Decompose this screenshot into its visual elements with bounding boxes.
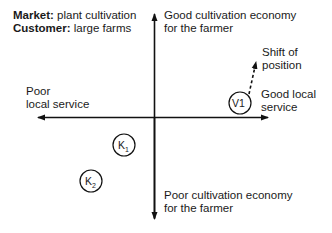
right-axis-label-2: service <box>261 101 297 114</box>
customer-line: Customer: large farms <box>13 22 131 35</box>
shift-annotation-2: position <box>262 59 302 72</box>
shift-annotation-1: Shift of <box>262 46 298 59</box>
top-axis-label-1: Good cultivation economy <box>164 9 296 22</box>
bottom-axis-label-1: Poor cultivation economy <box>164 189 292 202</box>
shift-arrow <box>249 62 256 94</box>
left-axis-label-2: local service <box>26 98 89 111</box>
market-line: Market: plant cultivation <box>13 9 136 22</box>
top-axis-label-2: for the farmer <box>164 22 233 35</box>
right-axis-label-1: Good local <box>261 88 316 101</box>
left-axis-label-1: Poor <box>26 85 50 98</box>
bottom-axis-label-2: for the farmer <box>164 202 233 215</box>
node-k2-label: K2 <box>85 175 96 193</box>
node-k1-label: K1 <box>118 139 129 157</box>
node-v1-label: V1 <box>232 97 245 110</box>
